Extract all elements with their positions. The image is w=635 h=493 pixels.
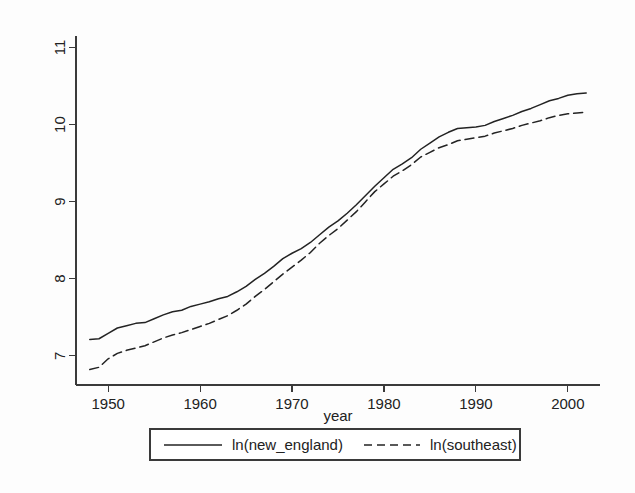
y-tick-label: 9 xyxy=(52,197,69,205)
y-tick-label: 8 xyxy=(52,275,69,283)
x-tick-label: 1990 xyxy=(459,395,492,412)
y-axis-ticks: 7891011 xyxy=(52,40,77,360)
legend-label-southeast: ln(southeast) xyxy=(430,436,517,453)
x-tick-label: 1960 xyxy=(183,395,216,412)
chart-figure: 7891011 195019601970198019902000 year ln… xyxy=(0,0,635,493)
legend-label-new-england: ln(new_england) xyxy=(232,436,343,453)
y-tick-label: 11 xyxy=(52,40,69,56)
data-series-group xyxy=(90,93,586,370)
y-tick-label: 10 xyxy=(52,116,69,133)
line-chart: 7891011 195019601970198019902000 year ln… xyxy=(0,0,635,493)
x-tick-label: 1970 xyxy=(275,395,308,412)
y-tick-label: 7 xyxy=(52,352,69,360)
x-tick-label: 1980 xyxy=(367,395,400,412)
series-ln-southeast- xyxy=(90,112,586,369)
x-tick-label: 2000 xyxy=(551,395,584,412)
x-tick-label: 1950 xyxy=(91,395,124,412)
chart-legend: ln(new_england) ln(southeast) xyxy=(150,429,520,460)
series-ln-new-england- xyxy=(90,93,586,340)
x-axis-title: year xyxy=(323,407,352,424)
